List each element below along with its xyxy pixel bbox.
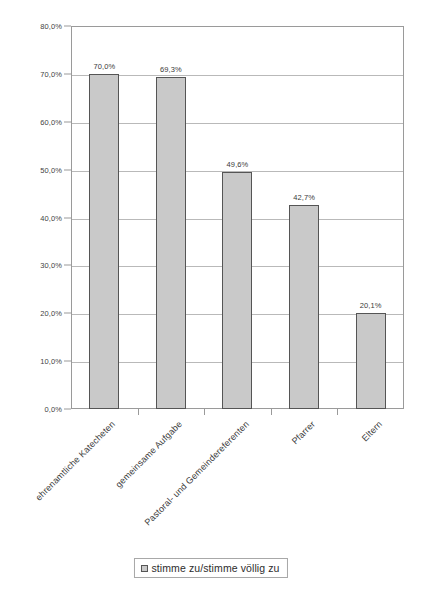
bar-value-label: 70,0% (93, 62, 115, 71)
y-axis-tick-label: 50,0% (40, 165, 62, 174)
bar-group: 70,0% (71, 26, 138, 409)
bar-value-label: 69,3% (160, 65, 182, 74)
bar[interactable] (89, 74, 119, 409)
bar-group: 49,6% (204, 26, 271, 409)
y-axis-tick-label: 10,0% (40, 357, 62, 366)
y-axis-tick-mark (64, 361, 71, 362)
y-axis-tick-mark (64, 26, 71, 27)
legend-swatch-icon (140, 565, 147, 572)
y-axis-tick-mark (64, 169, 71, 170)
y-axis-tick-mark (64, 217, 71, 218)
y-axis-tick-mark (64, 313, 71, 314)
bar-value-label: 20,1% (360, 301, 382, 310)
y-axis-tick-label: 70,0% (40, 69, 62, 78)
legend-label: stimme zu/stimme völlig zu (151, 562, 279, 574)
bar-value-label: 42,7% (293, 193, 315, 202)
y-axis-tick-label: 60,0% (40, 117, 62, 126)
bar[interactable] (356, 313, 386, 409)
bar[interactable] (156, 77, 186, 409)
bar-chart: 0,0%10,0%20,0%30,0%40,0%50,0%60,0%70,0%8… (0, 0, 421, 605)
y-axis-tick-mark (64, 121, 71, 122)
bars-layer: 70,0%69,3%49,6%42,7%20,1% (71, 26, 404, 409)
y-axis-tick-label: 40,0% (40, 213, 62, 222)
y-axis-tick-mark (64, 265, 71, 266)
y-axis-tick-label: 80,0% (40, 22, 62, 31)
y-axis-tick-label: 20,0% (40, 309, 62, 318)
bar-value-label: 49,6% (227, 160, 249, 169)
y-axis-tick-mark (64, 73, 71, 74)
y-axis-tick-label: 30,0% (40, 261, 62, 270)
bar[interactable] (222, 172, 252, 409)
bar-group: 42,7% (271, 26, 338, 409)
y-axis: 0,0%10,0%20,0%30,0%40,0%50,0%60,0%70,0%8… (0, 0, 71, 435)
bar[interactable] (289, 205, 319, 409)
x-axis-labels: ehrenamtliche Katechetengemeinsame Aufga… (0, 409, 421, 549)
bar-group: 20,1% (337, 26, 404, 409)
chart-legend: stimme zu/stimme völlig zu (133, 558, 287, 578)
bar-group: 69,3% (138, 26, 205, 409)
